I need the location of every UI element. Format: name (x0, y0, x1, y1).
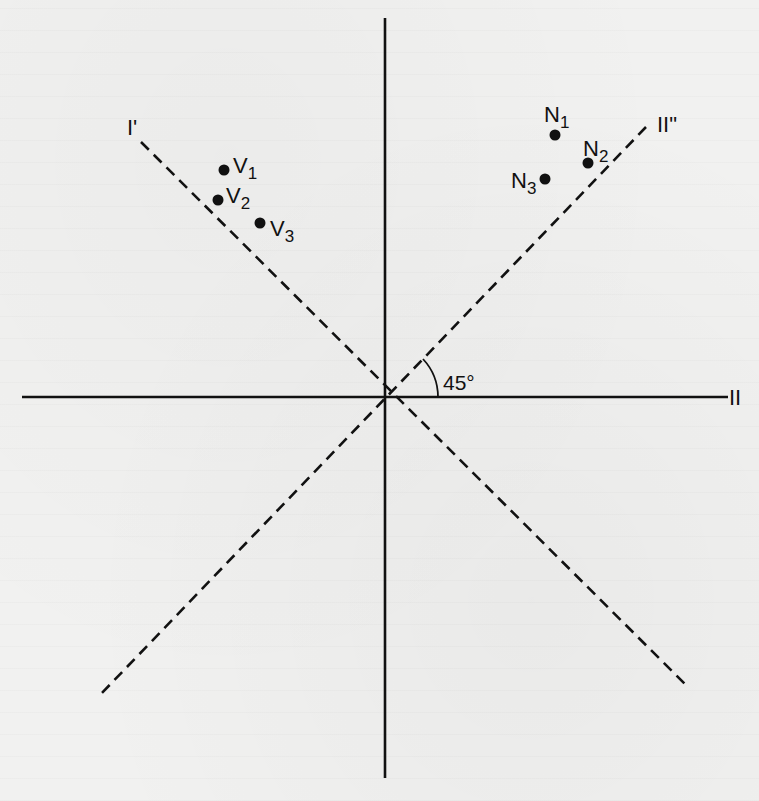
point-n3 (540, 174, 551, 185)
axis-label-ii-double-prime: II" (657, 114, 677, 136)
point-label-v1-sub: 1 (248, 164, 257, 183)
point-label-n2-base: N (583, 136, 599, 161)
axis-label-ii: II (729, 387, 741, 409)
diagram-svg (0, 0, 759, 801)
point-label-n2-sub: 2 (599, 147, 608, 166)
point-label-n2: N2 (583, 138, 608, 160)
angle-label: 45° (443, 372, 475, 393)
rotated-axis-i-prime (141, 142, 689, 688)
point-label-n3: N3 (511, 170, 536, 192)
point-label-n1-base: N (544, 102, 560, 127)
point-label-n3-base: N (511, 168, 527, 193)
point-label-v3-sub: 3 (285, 227, 294, 246)
axis-label-i-prime: I' (127, 117, 137, 139)
point-label-v2-base: V (226, 183, 241, 208)
point-label-v3-base: V (270, 216, 285, 241)
point-v1 (219, 165, 230, 176)
point-v2 (213, 195, 224, 206)
point-label-n3-sub: 3 (527, 179, 536, 198)
point-label-v3: V3 (270, 218, 294, 240)
point-n1 (550, 130, 561, 141)
factor-diagram: I' II" II 45° V1 V2 V3 N1 N2 N3 (0, 0, 759, 801)
point-label-v1: V1 (233, 155, 257, 177)
rotated-axis-ii-double-prime (101, 127, 646, 694)
point-label-v2: V2 (226, 185, 250, 207)
angle-arc (423, 359, 438, 397)
point-label-n1-sub: 1 (560, 113, 569, 132)
point-v3 (255, 218, 266, 229)
point-label-v1-base: V (233, 153, 248, 178)
point-label-v2-sub: 2 (241, 194, 250, 213)
point-label-n1: N1 (544, 104, 569, 126)
